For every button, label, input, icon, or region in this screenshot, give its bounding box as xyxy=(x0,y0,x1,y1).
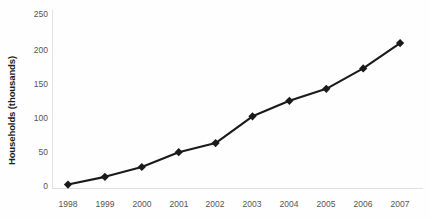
data-point-marker xyxy=(175,148,183,156)
data-point-marker xyxy=(285,97,293,105)
line-chart: Households (thousands) 0 50 100 150 200 … xyxy=(0,0,430,221)
data-point-marker xyxy=(64,180,72,188)
data-point-marker xyxy=(322,85,330,93)
data-point-marker xyxy=(101,173,109,181)
data-point-markers xyxy=(64,39,404,189)
data-point-marker xyxy=(138,163,146,171)
data-series-line xyxy=(68,43,400,185)
plot-area xyxy=(0,0,430,221)
